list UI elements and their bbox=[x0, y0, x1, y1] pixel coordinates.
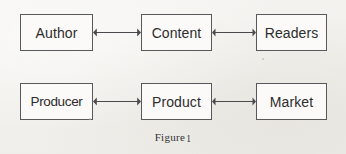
node-label-market: Market bbox=[270, 95, 313, 109]
node-label-author: Author bbox=[36, 26, 78, 40]
figure-caption: Figure1 bbox=[0, 131, 346, 143]
node-producer: Producer bbox=[20, 83, 93, 120]
node-author: Author bbox=[20, 14, 93, 51]
content-readers-arrow bbox=[212, 27, 256, 38]
node-label-content: Content bbox=[152, 26, 202, 40]
figure-diagram: Author Content Readers Producer Product … bbox=[0, 0, 346, 154]
product-market-arrow bbox=[212, 96, 256, 107]
node-label-readers: Readers bbox=[265, 26, 319, 40]
producer-product-arrow bbox=[93, 96, 141, 107]
figure-caption-prefix: Figure bbox=[155, 131, 186, 143]
figure-caption-number: 1 bbox=[185, 134, 191, 144]
author-content-arrow bbox=[93, 27, 141, 38]
node-label-producer: Producer bbox=[31, 95, 83, 109]
node-market: Market bbox=[256, 83, 327, 120]
scan-speck bbox=[262, 58, 264, 60]
node-product: Product bbox=[141, 83, 212, 120]
node-content: Content bbox=[141, 14, 212, 51]
node-readers: Readers bbox=[256, 14, 327, 51]
node-label-product: Product bbox=[152, 95, 201, 109]
